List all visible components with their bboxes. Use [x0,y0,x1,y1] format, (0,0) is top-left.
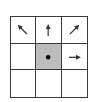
cell-1-0 [11,44,36,71]
cell-0-2 [62,17,87,44]
arrow-up-left-icon [11,17,35,43]
neighborhood-grid [10,16,88,98]
cell-0-1 [36,17,61,44]
cell-1-2 [62,44,87,71]
arrow-up-right-icon [62,17,87,43]
cell-2-0 [11,70,36,97]
arrow-right-icon [62,44,87,70]
cell-1-1-center [36,44,61,71]
cell-0-0 [11,17,36,44]
cell-2-2 [62,70,87,97]
arrow-up-icon [36,17,60,43]
cell-2-1 [36,70,61,97]
dot-icon [36,44,60,70]
